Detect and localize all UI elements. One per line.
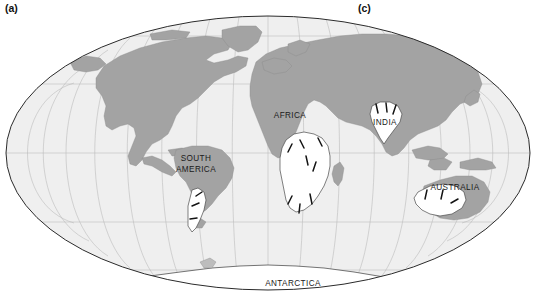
land-new-zealand-south [496, 224, 508, 236]
panel-label-c: (c) [358, 2, 371, 14]
ice-flow-tick [299, 204, 300, 213]
map-label-india: INDIA [373, 118, 397, 127]
figure-container: (a) (c) [0, 0, 537, 294]
map-label-south-america-line2: AMERICA [176, 165, 216, 174]
map-label-africa: AFRICA [274, 111, 307, 120]
panel-label-a: (a) [5, 2, 18, 14]
map-label-antarctica: ANTARCTICA [265, 279, 321, 288]
map-label-south-america-line1: SOUTH [181, 154, 212, 163]
ice-flow-tick [190, 218, 197, 219]
ice-flow-tick [386, 103, 387, 112]
map-label-australia: AUSTRALIA [430, 183, 479, 192]
world-map: AFRICA INDIA SOUTH AMERICA AUSTRALIA ANT… [0, 0, 537, 294]
